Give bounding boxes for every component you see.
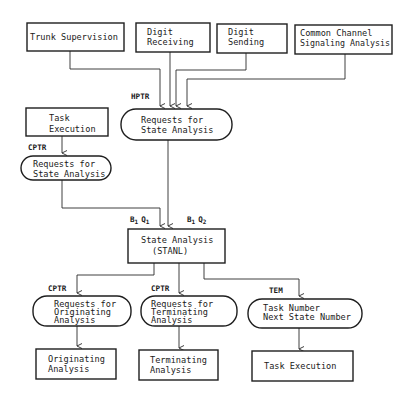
node-trunk-supervision: Trunk Supervision	[27, 23, 124, 51]
node-task-execution-top: Task Execution	[26, 108, 108, 136]
label-b1-q1: B1Q1	[130, 215, 150, 225]
node-label: Task	[49, 113, 71, 123]
flowchart-canvas: Trunk Supervision Digit Receiving Digit …	[0, 0, 411, 401]
node-label: Task Execution	[264, 361, 336, 371]
node-label: State Analysis	[33, 169, 105, 179]
edge-sending-to-requests	[176, 53, 246, 106]
node-label: Trunk Supervision	[30, 32, 118, 42]
node-requests-for-terminating-analysis: Requests for Terminating Analysis	[141, 296, 237, 326]
node-label: Common Channel	[300, 28, 372, 38]
node-label: Sending	[228, 37, 264, 47]
node-terminating-analysis: Terminating Analysis	[139, 350, 218, 380]
node-label: Next State Number	[263, 312, 351, 322]
label-b1-q2: B1Q2	[187, 215, 207, 225]
node-label: Originating	[48, 354, 105, 364]
edge-stanl-to-tasknumber	[204, 263, 299, 296]
node-label: Digit	[147, 27, 173, 37]
edge-stanl-to-originating	[77, 263, 154, 293]
label-cptr-originating: CPTR	[48, 284, 67, 293]
node-label: Analysis	[54, 315, 95, 325]
label-cptr-top: CPTR	[28, 143, 47, 152]
node-label: State Analysis	[141, 235, 213, 245]
node-label: Requests for	[141, 115, 203, 125]
node-label: Requests for	[33, 159, 95, 169]
node-digit-receiving: Digit Receiving	[136, 23, 210, 52]
label-cptr-terminating: CPTR	[151, 284, 170, 293]
edge-ccs-to-requests	[187, 54, 345, 106]
node-label: Execution	[49, 124, 96, 134]
node-hptr-requests-for-state-analysis: Requests for State Analysis	[121, 109, 232, 140]
node-task-execution-bottom: Task Execution	[252, 351, 353, 381]
node-label: Analysis	[150, 365, 191, 375]
node-label: Analysis	[151, 315, 192, 325]
node-label: State Analysis	[141, 125, 213, 135]
node-label: Signaling Analysis	[300, 38, 390, 48]
node-digit-sending: Digit Sending	[217, 24, 287, 53]
label-hptr: HPTR	[131, 92, 150, 101]
node-label: Receiving	[147, 37, 194, 47]
node-requests-for-originating-analysis: Requests for Originating Analysis	[33, 296, 131, 326]
node-label: Terminating	[150, 355, 207, 365]
node-cptr-requests-for-state-analysis: Requests for State Analysis	[21, 156, 111, 180]
node-label: Analysis	[48, 364, 89, 374]
node-originating-analysis: Originating Analysis	[36, 349, 116, 379]
node-label: (STANL)	[152, 246, 188, 256]
node-state-analysis-stanl: State Analysis (STANL)	[128, 229, 225, 263]
node-common-channel-signaling-analysis: Common Channel Signaling Analysis	[295, 25, 392, 54]
node-label: Digit	[228, 27, 254, 37]
node-task-number-next-state-number: Task Number Next State Number	[248, 299, 362, 328]
label-tem: TEM	[269, 286, 283, 295]
